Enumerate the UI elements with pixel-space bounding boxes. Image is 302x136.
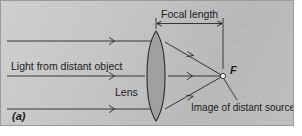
image-of-distant-source-label: Image of distant source (191, 103, 294, 113)
panel-letter-label: (a) (12, 111, 25, 122)
refracted-rays-group (165, 42, 223, 109)
lens-body (147, 31, 165, 121)
focal-point-dot (220, 73, 225, 78)
diagram-panel: Focal length Light from distant object L… (0, 0, 294, 126)
focal-point-marker (220, 73, 225, 78)
converging-lens (147, 31, 165, 121)
figure-container: Focal length Light from distant object L… (0, 0, 302, 136)
focal-length-label: Focal length (161, 9, 218, 20)
refracted-ray-top (165, 42, 223, 76)
refracted-ray-top-arrow (187, 52, 194, 57)
lens-label: Lens (115, 87, 138, 98)
image-label-leader-line (224, 79, 237, 100)
focal-length-dimension (156, 18, 223, 69)
light-source-label: Light from distant object (11, 61, 122, 72)
focal-point-label: F (230, 65, 237, 76)
incoming-rays-group (7, 37, 151, 112)
